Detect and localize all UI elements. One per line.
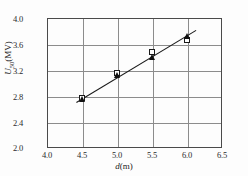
- data-point-triangle: [184, 33, 190, 39]
- y-tick-label: 2.0: [0, 143, 23, 153]
- y-axis-title-symbol: U: [3, 68, 13, 75]
- x-axis-title-unit: (m): [120, 161, 133, 171]
- y-axis-title-subscript: 50: [8, 62, 15, 69]
- gridline-horizontal: [48, 123, 221, 124]
- gridline-vertical: [83, 19, 84, 147]
- gridline-horizontal: [48, 97, 221, 98]
- y-tick-label: 2.8: [0, 92, 23, 102]
- x-tick-label: 6.0: [172, 150, 202, 160]
- gridline-horizontal: [48, 45, 221, 46]
- x-tick-label: 4.0: [32, 150, 62, 160]
- data-point-triangle: [114, 72, 120, 78]
- y-tick-label: 2.4: [0, 118, 23, 128]
- x-axis-title: d(m): [0, 161, 248, 171]
- x-tick-label: 5.0: [102, 150, 132, 160]
- x-tick-label: 5.5: [137, 150, 167, 160]
- plot-area: [47, 18, 222, 148]
- gridline-horizontal: [48, 71, 221, 72]
- data-point-triangle: [79, 96, 85, 102]
- y-axis-title: U50(MV): [3, 23, 15, 93]
- gridline-vertical: [153, 19, 154, 147]
- data-point-triangle: [149, 54, 155, 60]
- y-axis-title-unit: (MV): [3, 41, 13, 62]
- x-tick-label: 4.5: [67, 150, 97, 160]
- chart-figure: 4.0 3.6 3.2 2.8 2.4 2.0 4.0 4.5 5.0 5.5 …: [0, 0, 248, 176]
- x-tick-label: 6.5: [207, 150, 237, 160]
- gridline-vertical: [118, 19, 119, 147]
